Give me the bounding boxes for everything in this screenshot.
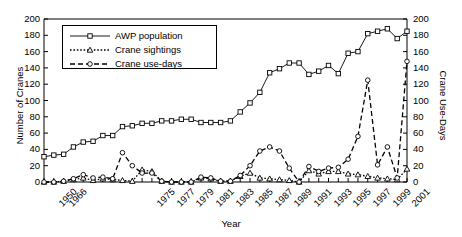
- legend-item: AWP population: [63, 29, 216, 43]
- legend-item: Crane sightings: [63, 43, 216, 57]
- y-axis-right-tick-label: 180: [413, 29, 443, 40]
- y-axis-right-tick-label: 0: [413, 176, 443, 187]
- series-crane-sightings: [41, 166, 410, 184]
- y-axis-right-tick-label: 120: [413, 78, 443, 89]
- y-axis-right-tick-label: 160: [413, 46, 443, 57]
- y-axis-left-tick-label: 40: [0, 143, 40, 154]
- y-axis-left-tick-label: 180: [0, 29, 40, 40]
- legend-marker-triangle-icon: [68, 43, 112, 57]
- y-axis-right-tick-label: 200: [413, 13, 443, 24]
- y-axis-left-tick-label: 80: [0, 111, 40, 122]
- x-axis-title: Year: [0, 218, 462, 229]
- legend-item: Crane use-days: [63, 57, 216, 71]
- y-axis-right-tick-label: 140: [413, 62, 443, 73]
- y-axis-left-tick-label: 140: [0, 62, 40, 73]
- legend-marker-circle-icon: [68, 57, 112, 71]
- y-axis-left-tick-label: 200: [0, 13, 40, 24]
- y-axis-right-tick-label: 20: [413, 160, 443, 171]
- y-axis-left-tick-label: 60: [0, 127, 40, 138]
- y-axis-right-tick-label: 40: [413, 143, 443, 154]
- legend-item-label: Crane sightings: [115, 43, 181, 57]
- crane-population-chart: Number of Cranes Crane Use-Days Year 020…: [0, 0, 462, 237]
- y-axis-right-tick-label: 80: [413, 111, 443, 122]
- y-axis-left-tick-label: 0: [0, 176, 40, 187]
- y-axis-left-tick-label: 160: [0, 46, 40, 57]
- legend-item-label: AWP population: [115, 29, 183, 43]
- y-axis-right-tick-label: 100: [413, 95, 443, 106]
- legend-marker-square-icon: [68, 29, 112, 43]
- y-axis-left-tick-label: 100: [0, 95, 40, 106]
- y-axis-right-tick-label: 60: [413, 127, 443, 138]
- legend-item-label: Crane use-days: [115, 57, 182, 71]
- y-axis-left-tick-label: 20: [0, 160, 40, 171]
- y-axis-left-tick-label: 120: [0, 78, 40, 89]
- chart-legend: AWP populationCrane sightingsCrane use-d…: [62, 25, 217, 69]
